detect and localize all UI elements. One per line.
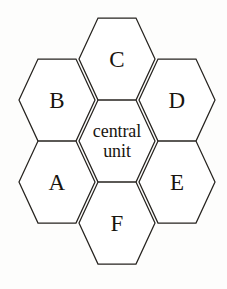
hexagon-cluster-diagram: CBDcentral unitAEF — [0, 0, 227, 289]
hexagon-cell-a — [19, 141, 95, 223]
hexagon-cell-central — [79, 100, 155, 182]
hexagon-cell-c — [79, 18, 155, 100]
hexagon-cell-f — [79, 182, 155, 264]
hexagon-cell-d — [139, 59, 215, 141]
hexagon-cell-e — [139, 141, 215, 223]
hexagon-outlines — [0, 0, 227, 289]
hexagon-cell-b — [19, 59, 95, 141]
